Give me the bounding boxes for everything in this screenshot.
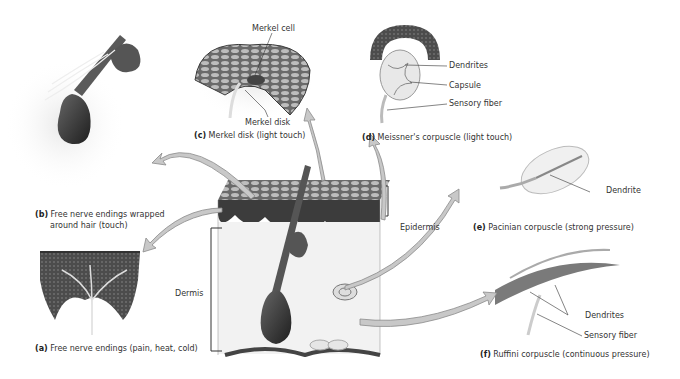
caption-a: (a) Free nerve endings (pain, heat, cold… xyxy=(35,344,198,354)
label-f-sensory-fiber: Sensory fiber xyxy=(584,331,637,341)
caption-c: (c) Merkel disk (light touch) xyxy=(194,131,306,141)
label-f-dendrites: Dendrites xyxy=(585,311,624,321)
label-merkel-disk: Merkel disk xyxy=(245,118,290,128)
skin-cross-section-art xyxy=(218,165,390,355)
caption-d-letter: (d) xyxy=(362,133,375,142)
caption-b-line2: around hair (touch) xyxy=(50,221,128,231)
panel-e-pacinian-corpuscle-art xyxy=(500,137,596,204)
label-d-capsule: Capsule xyxy=(449,81,481,91)
caption-a-letter: (a) xyxy=(35,344,48,353)
caption-e: (e) Pacinian corpuscle (strong pressure) xyxy=(473,223,634,233)
caption-d: (d) Meissner's corpuscle (light touch) xyxy=(362,133,512,143)
skin-receptor-illustration xyxy=(0,0,680,379)
caption-e-text: Pacinian corpuscle (strong pressure) xyxy=(488,223,634,232)
caption-b: (b) Free nerve endings wrapped xyxy=(35,210,165,220)
caption-f-letter: (f) xyxy=(480,350,491,359)
panel-b-hair-follicle-art xyxy=(5,35,140,190)
label-epidermis: Epidermis xyxy=(400,223,440,233)
caption-f: (f) Ruffini corpuscle (continuous pressu… xyxy=(480,350,650,360)
panel-c-merkel-disk-art xyxy=(195,38,315,122)
label-d-sensory-fiber: Sensory fiber xyxy=(449,99,502,109)
caption-b-letter: (b) xyxy=(35,210,48,219)
caption-f-text: Ruffini corpuscle (continuous pressure) xyxy=(493,350,649,359)
caption-c-letter: (c) xyxy=(194,131,206,140)
panel-f-ruffini-corpuscle-art xyxy=(495,250,620,335)
label-merkel-cell: Merkel cell xyxy=(252,24,295,34)
caption-a-text: Free nerve endings (pain, heat, cold) xyxy=(50,344,197,353)
arrow-to-f xyxy=(360,292,497,327)
caption-c-text: Merkel disk (light touch) xyxy=(209,131,306,140)
caption-b-text-line1: Free nerve endings wrapped xyxy=(51,210,165,219)
caption-d-text: Meissner's corpuscle (light touch) xyxy=(378,133,513,142)
label-d-dendrites: Dendrites xyxy=(449,61,488,71)
label-dermis: Dermis xyxy=(175,289,203,299)
panel-a-free-nerve-endings-art xyxy=(40,252,140,335)
label-e-dendrite: Dendrite xyxy=(606,186,641,196)
caption-e-letter: (e) xyxy=(473,223,486,232)
